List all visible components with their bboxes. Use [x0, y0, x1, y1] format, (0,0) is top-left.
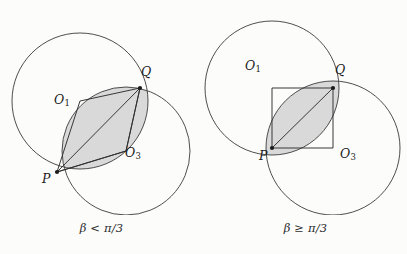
left-diagram-svg — [0, 0, 203, 215]
geometry-figure: O1 O3 P Q β < π/3 — [0, 0, 407, 254]
caption-right: β ≥ π/3 — [204, 221, 407, 235]
label-o3-left: O3 — [125, 147, 141, 160]
label-o3-right: O3 — [340, 148, 356, 161]
label-q-right: Q — [335, 64, 345, 77]
label-q-left: Q — [141, 66, 151, 79]
caption-left: β < π/3 — [0, 221, 203, 235]
diagram-panel-right: O1 O3 P Q β ≥ π/3 — [204, 0, 407, 254]
label-o1-right: O1 — [245, 60, 261, 73]
label-p-right: P — [259, 150, 267, 163]
label-p-left: P — [42, 173, 50, 186]
point-q-right — [331, 86, 335, 90]
right-diagram-svg — [204, 0, 407, 215]
label-o1-left: O1 — [54, 94, 70, 107]
diagram-panel-left: O1 O3 P Q β < π/3 — [0, 0, 203, 254]
point-p-right — [270, 146, 274, 150]
point-p-left — [55, 170, 59, 174]
point-q-left — [138, 86, 142, 90]
